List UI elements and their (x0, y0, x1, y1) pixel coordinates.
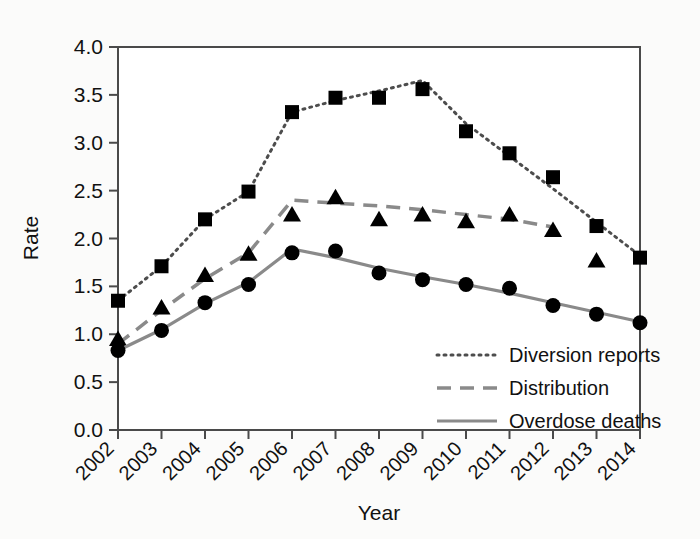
data-point-square (155, 259, 169, 273)
data-point-circle (459, 277, 474, 292)
y-axis-tick-label: 0.5 (74, 370, 103, 393)
data-point-circle (111, 343, 126, 358)
y-axis-tick-label: 2.5 (74, 179, 103, 202)
data-point-circle (241, 277, 256, 292)
y-axis-tick-label: 3.5 (74, 83, 103, 106)
legend-label: Diversion reports (509, 344, 660, 366)
data-point-square (198, 212, 212, 226)
y-axis-tick-label: 3.0 (74, 131, 103, 154)
chart-figure: 0.00.51.01.52.02.53.03.54.0 200220032004… (0, 0, 700, 539)
data-point-square (546, 170, 560, 184)
y-axis-tick-label: 0.0 (74, 418, 103, 441)
data-point-circle (415, 272, 430, 287)
legend-label: Overdose deaths (509, 410, 661, 432)
y-axis-tick-label: 2.0 (74, 227, 103, 250)
data-point-square (503, 146, 517, 160)
data-point-circle (198, 295, 213, 310)
data-point-circle (372, 265, 387, 280)
data-point-square (416, 82, 430, 96)
chart-canvas: 0.00.51.01.52.02.53.03.54.0 200220032004… (0, 0, 700, 539)
data-point-circle (154, 323, 169, 338)
x-axis-title: Year (358, 501, 400, 524)
legend-label: Distribution (509, 377, 609, 399)
data-point-circle (589, 307, 604, 322)
y-axis-tick-label: 4.0 (74, 35, 103, 58)
data-point-square (111, 294, 125, 308)
data-point-square (329, 91, 343, 105)
data-point-circle (285, 245, 300, 260)
data-point-square (242, 185, 256, 199)
data-point-circle (633, 315, 648, 330)
data-point-square (372, 91, 386, 105)
data-point-circle (328, 243, 343, 258)
data-point-square (633, 251, 647, 265)
y-axis-title: Rate (19, 216, 42, 260)
data-point-square (285, 105, 299, 119)
data-point-circle (546, 298, 561, 313)
data-point-square (459, 124, 473, 138)
y-axis-tick-label: 1.0 (74, 322, 103, 345)
y-axis-tick-label: 1.5 (74, 274, 103, 297)
data-point-square (590, 219, 604, 233)
data-point-circle (502, 281, 517, 296)
